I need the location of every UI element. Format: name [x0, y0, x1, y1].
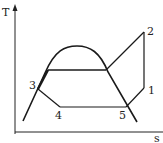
process-3-a [38, 70, 48, 89]
y-axis-arrow-icon [13, 4, 18, 11]
process-a-2 [106, 32, 144, 70]
point-label-3: 3 [29, 79, 36, 92]
point-label-4: 4 [55, 109, 62, 122]
point-label-2: 2 [147, 25, 154, 38]
ts-diagram: T s 2 1 3 4 5 [0, 0, 163, 143]
point-label-5: 5 [119, 109, 126, 122]
point-label-1: 1 [148, 84, 155, 97]
y-axis-label: T [2, 6, 10, 19]
process-1-5 [126, 88, 144, 107]
process-4-3 [38, 89, 60, 107]
x-axis-label: s [154, 132, 160, 143]
